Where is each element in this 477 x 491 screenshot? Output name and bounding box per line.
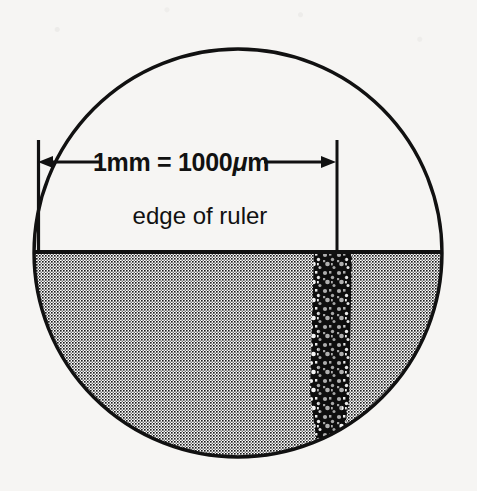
scale-micron-unit-m: m <box>247 148 269 176</box>
scale-bar-label: 1mm = 1000μm <box>93 148 269 176</box>
scale-value: 1mm <box>93 148 150 176</box>
ruler-edge-label: edge of ruler <box>133 202 268 229</box>
microscope-field-diagram: 1mm = 1000μm edge of ruler <box>0 0 477 491</box>
micro-sign: μ <box>231 148 247 176</box>
figure-root: 1mm = 1000μm edge of ruler <box>0 0 477 491</box>
scale-equals: = <box>157 148 171 176</box>
scale-micron-number: 1000 <box>178 148 232 176</box>
